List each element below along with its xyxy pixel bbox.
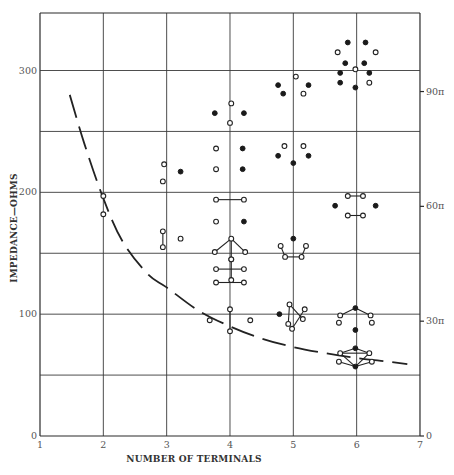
open-terminal-dot <box>160 179 165 184</box>
open-terminal-dot <box>368 313 373 318</box>
filled-terminal-dot <box>240 167 245 172</box>
open-terminal-dot <box>229 101 234 106</box>
x-axis-title: NUMBER OF TERMINALS <box>126 454 262 464</box>
x-tick-label: 7 <box>417 439 423 450</box>
filled-terminal-dot <box>178 169 183 174</box>
open-terminal-dot <box>373 50 378 55</box>
y-axis-title: IMPEDANCE—OHMS <box>9 173 19 282</box>
x-tick-label: 5 <box>290 439 296 450</box>
open-terminal-dot <box>369 359 374 364</box>
impedance-chart: 12345670100200300030π60π90π NUMBER OF TE… <box>0 0 454 475</box>
open-terminal-dot <box>214 146 219 151</box>
terminal-configurations <box>101 40 378 369</box>
filled-terminal-dot <box>338 80 343 85</box>
filled-terminal-dot <box>240 146 245 151</box>
x-tick-label: 1 <box>37 439 43 450</box>
open-terminal-dot <box>229 278 234 283</box>
open-terminal-dot <box>242 267 247 272</box>
open-terminal-dot <box>302 307 307 312</box>
configuration-4-terminals <box>207 307 252 334</box>
y-tick-label-right: 0 <box>426 430 432 441</box>
open-terminal-dot <box>361 213 366 218</box>
open-terminal-dot <box>229 257 234 262</box>
filled-terminal-dot <box>363 40 368 45</box>
filled-terminal-dot <box>353 346 358 351</box>
filled-terminal-dot <box>338 71 343 76</box>
y-tick-label-right: 30π <box>426 315 444 326</box>
filled-terminal-dot <box>276 153 281 158</box>
bond-line <box>290 304 303 319</box>
open-terminal-dot <box>361 194 366 199</box>
filled-terminal-dot <box>306 83 311 88</box>
configuration-4-terminals <box>214 146 245 172</box>
open-terminal-dot <box>282 144 287 149</box>
x-tick-label: 2 <box>100 439 106 450</box>
filled-terminal-dot <box>353 85 358 90</box>
filled-terminal-dot <box>306 153 311 158</box>
open-terminal-dot <box>178 236 183 241</box>
filled-terminal-dot <box>353 328 358 333</box>
filled-terminal-dot <box>242 111 247 116</box>
open-terminal-dot <box>248 318 253 323</box>
open-terminal-dot <box>300 317 305 322</box>
open-terminal-dot <box>301 91 306 96</box>
open-terminal-dot <box>214 197 219 202</box>
open-terminal-dot <box>283 255 288 260</box>
open-terminal-dot <box>214 267 219 272</box>
open-terminal-dot <box>337 320 342 325</box>
open-terminal-dot <box>301 144 306 149</box>
y-tick-label-left: 100 <box>19 308 37 319</box>
open-terminal-dot <box>214 167 219 172</box>
open-terminal-dot <box>212 250 217 255</box>
x-tick-label: 3 <box>164 439 170 450</box>
open-terminal-dot <box>229 236 234 241</box>
filled-terminal-dot <box>212 111 217 116</box>
grid <box>40 13 420 436</box>
open-terminal-dot <box>369 320 374 325</box>
open-terminal-dot <box>243 250 248 255</box>
y-tick-label-left: 200 <box>19 186 37 197</box>
filled-terminal-dot <box>362 61 367 66</box>
bond-line <box>215 239 231 252</box>
open-terminal-dot <box>160 245 165 250</box>
filled-terminal-dot <box>367 71 372 76</box>
open-terminal-dot <box>162 162 167 167</box>
configuration-6-terminals <box>333 194 378 218</box>
open-terminal-dot <box>290 326 295 331</box>
filled-terminal-dot <box>291 236 296 241</box>
filled-terminal-dot <box>333 203 338 208</box>
open-terminal-dot <box>214 280 219 285</box>
open-terminal-dot <box>228 120 233 125</box>
open-terminal-dot <box>287 302 292 307</box>
x-tick-label: 4 <box>227 439 233 450</box>
configuration-5-terminals <box>277 302 307 331</box>
open-terminal-dot <box>367 80 372 85</box>
open-terminal-dot <box>367 351 372 356</box>
open-terminal-dot <box>345 194 350 199</box>
open-terminal-dot <box>293 74 298 79</box>
open-terminal-dot <box>207 318 212 323</box>
configuration-4-terminals <box>212 101 246 125</box>
y-tick-label-right: 90π <box>426 86 444 97</box>
open-terminal-dot <box>338 313 343 318</box>
open-terminal-dot <box>242 197 247 202</box>
configuration-3-terminals <box>160 229 183 250</box>
open-terminal-dot <box>337 359 342 364</box>
configuration-6-terminals <box>337 306 375 333</box>
filled-terminal-dot <box>353 306 358 311</box>
open-terminal-dot <box>304 244 309 249</box>
filled-terminal-dot <box>281 91 286 96</box>
filled-terminal-dot <box>345 40 350 45</box>
configuration-3-terminals <box>160 162 183 184</box>
open-terminal-dot <box>228 307 233 312</box>
filled-terminal-dot <box>373 203 378 208</box>
open-terminal-dot <box>228 329 233 334</box>
filled-terminal-dot <box>343 61 348 66</box>
filled-terminal-dot <box>353 364 358 369</box>
open-terminal-dot <box>242 280 247 285</box>
filled-terminal-dot <box>291 161 296 166</box>
open-terminal-dot <box>160 229 165 234</box>
filled-terminal-dot <box>277 312 282 317</box>
open-terminal-dot <box>101 194 106 199</box>
y-tick-label-left: 0 <box>31 430 37 441</box>
